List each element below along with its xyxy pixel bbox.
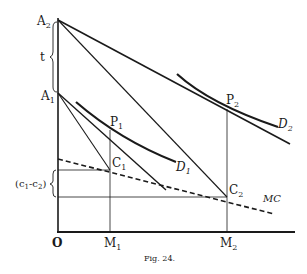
label-a1: A1 [40,89,55,105]
label-d2: D2 [277,117,293,133]
label-c2: C2 [229,183,243,199]
a1-tangent-line [58,93,166,190]
label-mc: MC [262,193,281,204]
label-a2: A2 [36,14,51,30]
label-m1: M1 [104,236,121,252]
t-brace [50,22,57,92]
label-p2: P2 [226,93,239,109]
label-t: t [40,50,45,64]
figure-caption: Fig. 24. [144,254,175,263]
label-cost-diff: (c1-c2) [15,178,46,191]
label-d1: D1 [175,160,191,176]
a1-c1-line [58,93,110,170]
cost-diff-brace [50,170,56,197]
demand-curve-d1 [76,102,176,162]
marginal-cost-curve [58,159,274,214]
label-c1: C1 [112,156,126,172]
label-p1: P1 [110,115,123,131]
a2-tangent-line [58,20,290,144]
diagram-canvas: A2 t A1 P1 C1 P2 C2 D1 D2 MC (c1-c2) O M… [0,0,307,274]
label-origin: O [52,236,62,250]
label-m2: M2 [220,236,237,252]
